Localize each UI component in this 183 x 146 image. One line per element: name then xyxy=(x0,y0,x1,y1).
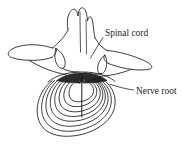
anatomical-figure: Spinal cord Nerve root xyxy=(0,0,183,146)
vertebra-diagram-svg: Spinal cord Nerve root xyxy=(0,0,183,146)
label-nerve-root: Nerve root xyxy=(136,86,177,96)
figure-background xyxy=(0,0,183,146)
label-spinal-cord: Spinal cord xyxy=(105,28,148,38)
